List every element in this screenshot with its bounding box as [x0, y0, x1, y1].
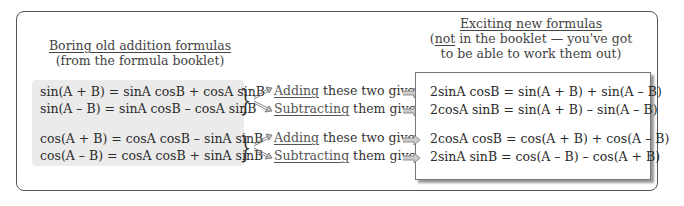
result-2cosAcosB: 2cosA cosB = cos(A + B) + cos(A – B) [430, 131, 669, 147]
line2-rest: in the booklet — you've got [455, 31, 632, 46]
adding-word: Adding [274, 130, 319, 145]
adding-word: Adding [274, 83, 319, 98]
sin-diff-formula: sin(A – B) = sinA cosB – cosA sinB [40, 101, 256, 117]
subtracting-word: Subtracting [274, 101, 349, 116]
result-2sinAcosB: 2sinA cosB = sin(A + B) + sin(A – B) [430, 84, 662, 100]
result-2sinAsinB: 2sinA sinB = cos(A – B) – cos(A + B) [430, 149, 660, 165]
cos-sum-formula: cos(A + B) = cosA cosB – sinA sinB [40, 131, 263, 147]
right-header: Exciting new formulas (not in the bookle… [400, 16, 662, 61]
right-arrow-icon [402, 134, 422, 146]
not-emphasis: not [435, 31, 456, 46]
result-2cosAsinB: 2cosA sinB = sin(A + B) – sin(A – B) [430, 102, 658, 118]
left-header-subtitle: (from the formula booklet) [40, 53, 240, 68]
right-arrow-icon [402, 152, 422, 164]
subtracting-word: Subtracting [274, 148, 349, 163]
brace-icon: } [240, 132, 251, 162]
right-header-title: Exciting new formulas [400, 16, 662, 31]
cos-diff-formula: cos(A – B) = cosA cosB + sinA sinB [40, 148, 263, 164]
left-header: Boring old addition formulas (from the f… [40, 38, 240, 68]
left-header-title: Boring old addition formulas [40, 38, 240, 53]
brace-icon: } [240, 85, 251, 115]
right-header-line2: (not in the booklet — you've got [400, 31, 662, 46]
diagonal-arrows-icon [252, 84, 274, 114]
diagonal-arrows-icon [252, 131, 274, 161]
right-header-line3: to be able to work them out) [400, 46, 662, 61]
sin-sum-formula: sin(A + B) = sinA cosB + cosA sinB [40, 84, 265, 100]
